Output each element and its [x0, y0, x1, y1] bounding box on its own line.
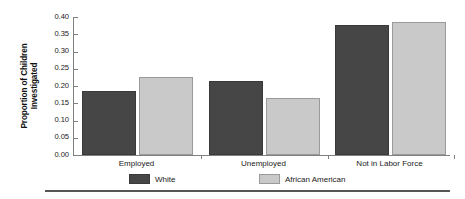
- bar-white-employed: [82, 91, 136, 155]
- legend-item-african-american[interactable]: African American: [259, 174, 345, 184]
- legend-label: White: [155, 175, 175, 184]
- bar-group: [82, 17, 191, 155]
- legend-item-white[interactable]: White: [129, 174, 175, 184]
- y-axis-title-text: Proportion of Children Investigated: [20, 43, 40, 128]
- bar-series-container: [74, 17, 450, 155]
- x-axis-category-label: Employed: [82, 159, 191, 168]
- y-axis-tick-label: 0.35: [54, 29, 69, 38]
- x-axis-category-label: Not in Labor Force: [335, 159, 444, 168]
- bottom-divider-rule: [45, 190, 450, 192]
- y-axis-tick-label: 0.00: [54, 150, 69, 159]
- legend-swatch-icon: [259, 174, 280, 184]
- y-axis-tick-label: 0.40: [54, 12, 69, 21]
- x-axis-category-label: Unemployed: [209, 159, 318, 168]
- x-axis-category-labels: EmployedUnemployedNot in Labor Force: [74, 159, 450, 171]
- x-axis-tick-mark: [454, 155, 455, 159]
- y-axis-title: Proportion of Children Investigated: [14, 17, 46, 155]
- legend-label: African American: [285, 175, 345, 184]
- bar-african-american-employed: [139, 77, 193, 155]
- y-axis-tick-mark: [74, 155, 78, 156]
- y-axis-tick-label: 0.25: [54, 63, 69, 72]
- plot-area: 0.400.350.300.250.200.150.100.050.00: [74, 17, 450, 155]
- bar-chart-figure: Proportion of Children Investigated 0.40…: [0, 0, 465, 199]
- bar-group: [209, 17, 318, 155]
- bar-african-american-not-in-labor-force: [392, 22, 446, 155]
- y-axis-tick-label: 0.05: [54, 132, 69, 141]
- bar-white-unemployed: [209, 81, 263, 155]
- bar-african-american-unemployed: [266, 98, 320, 155]
- y-axis-tick-label: 0.20: [54, 81, 69, 90]
- chart-legend: WhiteAfrican American: [74, 174, 450, 186]
- bar-group: [335, 17, 444, 155]
- y-axis-tick-label: 0.10: [54, 115, 69, 124]
- x-axis-line: [73, 155, 450, 156]
- y-axis-tick-label: 0.30: [54, 46, 69, 55]
- y-axis-title-line-1: Proportion of Children: [20, 43, 30, 128]
- y-axis-title-line-2: Investigated: [30, 43, 40, 128]
- legend-swatch-icon: [129, 174, 150, 184]
- bar-white-not-in-labor-force: [335, 25, 389, 155]
- y-axis-tick-label: 0.15: [54, 98, 69, 107]
